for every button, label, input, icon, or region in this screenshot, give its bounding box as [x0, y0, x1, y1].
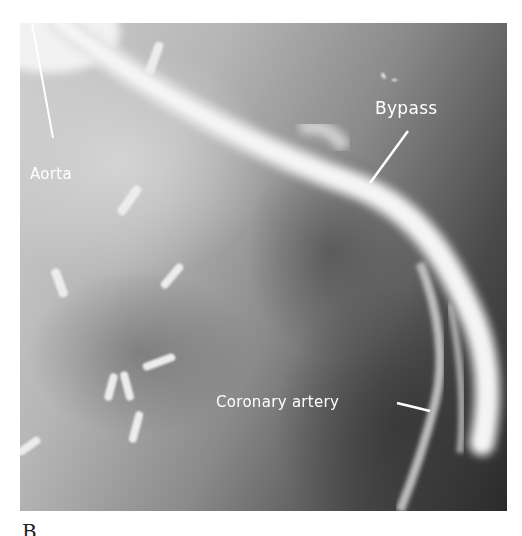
angiogram-image: Aorta Bypass Coronary artery	[20, 23, 507, 511]
coronary-artery-label: Coronary artery	[216, 393, 339, 411]
aorta-label: Aorta	[30, 165, 72, 183]
coronary-pointer-line	[397, 403, 430, 411]
vessel-overlay	[20, 23, 507, 511]
panel-label: B	[22, 518, 37, 536]
bypass-label: Bypass	[375, 98, 437, 118]
surgical-clips	[20, 41, 397, 457]
coronary-artery-vessel	[400, 263, 440, 511]
bypass-pointer-line	[370, 131, 408, 183]
